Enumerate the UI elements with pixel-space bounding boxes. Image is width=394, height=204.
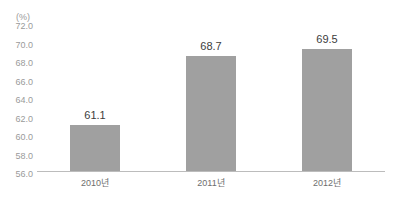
x-axis-category-label: 2012년 <box>313 176 341 189</box>
y-axis-tick-label: 60.0 <box>15 132 33 142</box>
y-axis-tick-label: 58.0 <box>15 151 33 161</box>
y-axis-tick-label: 66.0 <box>15 77 33 87</box>
bar-group: 69.5 <box>302 26 352 171</box>
x-axis: 2010년2011년2012년 <box>37 176 387 196</box>
x-axis-category-label: 2010년 <box>81 176 109 189</box>
bar-group: 68.7 <box>186 26 236 171</box>
y-axis-tick-label: 64.0 <box>15 95 33 105</box>
x-axis-category-label: 2011년 <box>197 176 224 189</box>
bar-value-label: 69.5 <box>316 33 337 45</box>
bar-value-label: 61.1 <box>84 109 105 121</box>
bar-group: 61.1 <box>70 26 120 171</box>
plot-area: 61.168.769.5 <box>37 26 387 172</box>
y-axis-tick-label: 56.0 <box>15 169 33 179</box>
y-axis: 56.058.060.062.064.066.068.070.072.0 <box>0 26 36 174</box>
y-axis-tick-label: 68.0 <box>15 58 33 68</box>
bar-chart: (%) 56.058.060.062.064.066.068.070.072.0… <box>0 0 394 204</box>
bar-value-label: 68.7 <box>200 40 221 52</box>
bar[interactable] <box>186 56 236 171</box>
y-axis-tick-label: 72.0 <box>15 21 33 31</box>
y-axis-tick-label: 62.0 <box>15 114 33 124</box>
y-axis-tick-label: 70.0 <box>15 40 33 50</box>
bar[interactable] <box>302 49 352 171</box>
bar[interactable] <box>70 125 120 171</box>
x-axis-baseline <box>37 171 385 172</box>
